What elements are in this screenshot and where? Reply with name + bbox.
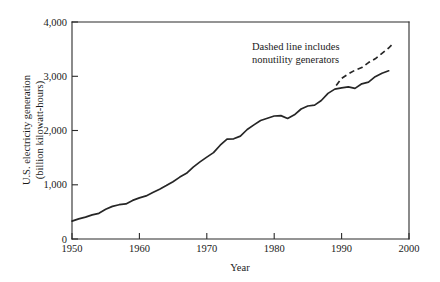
chart-figure: 0 1,000 2,000 3,000 4,000 1950 1960 1970… <box>0 0 440 282</box>
x-tick-label-1960: 1960 <box>129 243 150 254</box>
y-tick-label-4000: 4,000 <box>43 17 67 28</box>
y-tick-label-2000: 2,000 <box>43 125 67 136</box>
x-tick-labels: 1950 1960 1970 1980 1990 2000 <box>62 243 420 254</box>
series-line-utility <box>72 71 389 221</box>
series-line-nonutility <box>336 43 394 86</box>
y-axis-title-line2: (billion kilowatt-hours) <box>34 80 46 179</box>
y-axis-title-line1: U.S. electricity generation <box>21 74 32 185</box>
x-tick-label-1970: 1970 <box>196 243 217 254</box>
plot-frame <box>72 22 409 239</box>
chart-canvas: 0 1,000 2,000 3,000 4,000 1950 1960 1970… <box>0 0 440 282</box>
x-tick-label-2000: 2000 <box>399 243 420 254</box>
x-tick-label-1950: 1950 <box>62 243 83 254</box>
x-tick-marks <box>72 233 409 239</box>
dashed-line-annotation: Dashed line includes nonutility generato… <box>252 41 339 65</box>
x-axis-title: Year <box>230 262 250 273</box>
y-axis-title: U.S. electricity generation (billion kil… <box>21 74 46 185</box>
annotation-line-1: Dashed line includes <box>252 41 339 52</box>
y-tick-label-1000: 1,000 <box>43 179 67 190</box>
x-tick-label-1980: 1980 <box>264 243 285 254</box>
y-tick-labels: 0 1,000 2,000 3,000 4,000 <box>43 17 67 245</box>
annotation-line-2: nonutility generators <box>252 54 339 65</box>
y-tick-label-3000: 3,000 <box>43 71 67 82</box>
y-tick-marks <box>72 22 78 239</box>
x-tick-label-1990: 1990 <box>331 243 352 254</box>
